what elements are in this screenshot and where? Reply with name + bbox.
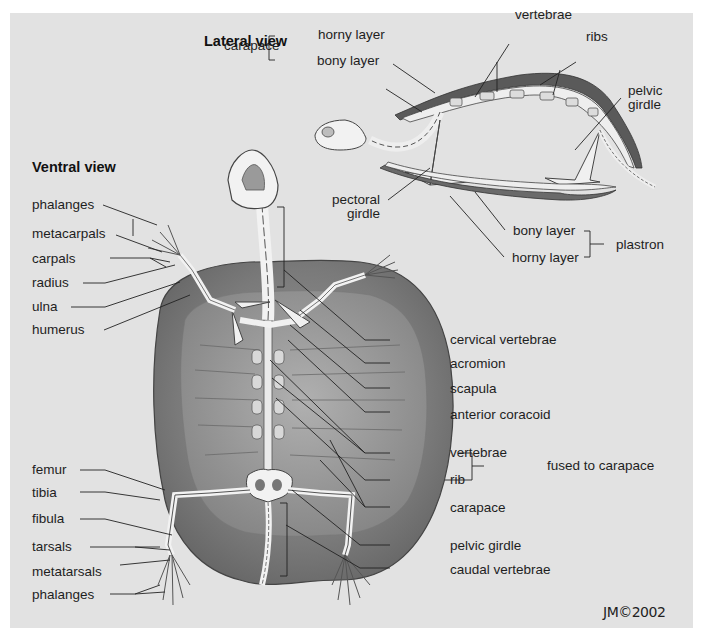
- label-acromion: acromion: [450, 357, 506, 371]
- label-carapace: carapace: [224, 39, 280, 53]
- label-vertebrae: vertebrae: [450, 446, 507, 460]
- ventral-view-illustration: [148, 150, 453, 605]
- label-pelvic-girdle: pelvic girdle: [450, 539, 521, 553]
- label-anterior-coracoid: anterior coracoid: [450, 408, 551, 422]
- label-lateral-pelvic-girdle: pelvic girdle: [628, 84, 668, 112]
- label-fused-to-carapace: fused to carapace: [547, 459, 654, 473]
- ventral-view-title: Ventral view: [32, 160, 116, 175]
- label-ulna: ulna: [32, 300, 58, 314]
- label-lateral-ribs: ribs: [586, 30, 608, 44]
- label-tibia: tibia: [32, 486, 57, 500]
- label-radius: radius: [32, 276, 69, 290]
- lateral-view-illustration: [315, 73, 655, 200]
- label-plastron: plastron: [616, 238, 664, 252]
- label-plastron-bony-layer: bony layer: [513, 224, 575, 238]
- label-lateral-vertebrae: vertebrae: [515, 8, 572, 22]
- label-hind-phalanges: phalanges: [32, 588, 94, 602]
- label-fore-phalanges: phalanges: [32, 198, 94, 212]
- label-plastron-horny-layer: horny layer: [512, 251, 579, 265]
- label-lateral-horny-layer: horny layer: [318, 28, 385, 42]
- label-carapace-ventral: carapace: [450, 501, 506, 515]
- label-fibula: fibula: [32, 512, 64, 526]
- label-caudal-vertebrae: caudal vertebrae: [450, 563, 551, 577]
- label-metacarpals: metacarpals: [32, 227, 106, 241]
- label-metatarsals: metatarsals: [32, 565, 102, 579]
- label-femur: femur: [32, 463, 67, 477]
- label-scapula: scapula: [450, 382, 497, 396]
- artist-signature: JM©2002: [603, 604, 665, 620]
- label-rib: rib: [450, 473, 465, 487]
- label-humerus: humerus: [32, 323, 85, 337]
- label-cervical-vertebrae: cervical vertebrae: [450, 333, 557, 347]
- label-carpals: carpals: [32, 252, 76, 266]
- label-tarsals: tarsals: [32, 540, 72, 554]
- pectoral-girdle-text: pectoral girdle: [325, 193, 380, 221]
- label-lateral-pectoral-girdle: pectoral girdle: [325, 193, 380, 221]
- label-lateral-bony-layer: bony layer: [317, 54, 379, 68]
- turtle-skeleton-illustration: [0, 0, 703, 644]
- pelvic-girdle-text: pelvic girdle: [628, 84, 668, 112]
